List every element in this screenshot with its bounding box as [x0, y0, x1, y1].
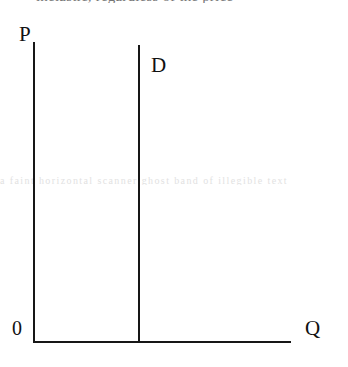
quantity-axis-line [33, 341, 291, 343]
origin-label: 0 [12, 318, 22, 338]
demand-curve-label: D [151, 55, 166, 76]
scan-artifact-band: a faint horizontal scanner ghost band of… [0, 176, 348, 185]
price-axis-line [33, 42, 35, 343]
demand-curve-figure: inelastic, regardless of the price a fai… [0, 0, 348, 367]
demand-curve-line [138, 45, 140, 343]
price-axis-label: P [19, 24, 31, 45]
clipped-caption-text: inelastic, regardless of the price [36, 0, 348, 3]
quantity-axis-label: Q [305, 318, 320, 339]
